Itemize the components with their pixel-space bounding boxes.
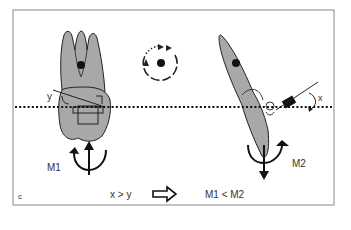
panel-label: c [18, 193, 22, 201]
result-text: M1 < M2 [205, 190, 244, 200]
center-of-resistance-right [232, 59, 240, 67]
left-tooth [53, 31, 111, 141]
condition-text: x > y [110, 190, 131, 200]
center-of-resistance-left [77, 61, 85, 69]
hollow-right-arrow-icon [153, 187, 176, 201]
moment-m1-icon [69, 141, 106, 175]
moment-m2-label: M2 [292, 159, 306, 169]
diagram-panel: y x M1 M2 x > y M1 < M2 c [0, 0, 351, 230]
right-tooth [219, 35, 318, 157]
moment-m1-label: M1 [47, 163, 61, 173]
rotation-circle-icon [143, 44, 177, 80]
angle-y-label: y [47, 92, 52, 102]
angle-x-label: x [318, 94, 323, 103]
